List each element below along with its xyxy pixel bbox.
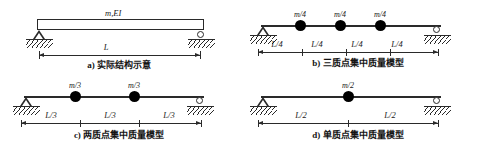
dim-tick-b-0: [258, 49, 259, 56]
ground-hatch-a-left: [26, 39, 53, 48]
dimension-label-b-3: L/4: [344, 40, 370, 49]
caption-panel-b: b) 三质点集中质量模型: [239, 58, 477, 69]
ground-hatch-c-left: [13, 106, 40, 115]
mass-label-d-1: m/2: [342, 81, 354, 90]
beam-a: [37, 19, 204, 30]
lumped-mass-b-1: [295, 20, 306, 31]
dimension-line-c: [21, 123, 201, 124]
dimension-label-a-1: L: [94, 43, 118, 52]
mass-label-b-1: m/4: [294, 10, 306, 19]
beam-c: [24, 96, 204, 98]
lumped-mass-b-2: [335, 20, 346, 31]
dimension-label-c-1: L/3: [38, 111, 64, 120]
caption-panel-a: a) 实际结构示意: [0, 60, 238, 71]
dimension-label-d-1: L/2: [288, 111, 314, 120]
dimension-label-c-2: L/3: [97, 111, 123, 120]
dim-tick-d-1: [348, 120, 349, 127]
caption-panel-c: c) 两质点集中质量模型: [0, 130, 238, 141]
lumped-mass-b-3: [375, 20, 386, 31]
panel-c-two-mass-model: m/3 m/3 L/3 L/3 L/3 c) 两质点集中质量模型: [0, 76, 238, 151]
dim-tick-c-3: [201, 120, 202, 127]
dim-tick-d-0: [258, 120, 259, 127]
lumped-mass-c-2: [129, 91, 140, 102]
mass-label-c-2: m/3: [128, 81, 140, 90]
roller-support-a-right: [197, 31, 204, 38]
dimension-label-c-3: L/3: [156, 111, 182, 120]
dimension-label-d-2: L/2: [377, 111, 403, 120]
ground-hatch-a-right: [188, 39, 215, 48]
pin-support-a-left: [33, 30, 45, 39]
dim-tick-d-2: [438, 120, 439, 127]
ground-hatch-d-left: [250, 106, 277, 115]
beam-property-label-a: m,EI: [105, 9, 121, 18]
beam-b: [261, 25, 441, 27]
dimension-label-b-1: L/4: [264, 40, 290, 49]
roller-support-d-right: [433, 97, 440, 104]
mass-label-b-3: m/4: [374, 10, 386, 19]
ground-hatch-d-right: [424, 106, 451, 115]
ground-hatch-b-right: [424, 35, 451, 44]
dimension-line-b: [258, 52, 438, 53]
dim-tick-b-1: [302, 49, 303, 56]
panel-a-actual-structure: m,EI L a) 实际结构示意: [0, 0, 238, 75]
dim-arrow-a-right: [195, 53, 200, 57]
dim-ext-a-right: [200, 51, 201, 59]
dim-tick-b-4: [438, 49, 439, 56]
dim-tick-c-2: [139, 120, 140, 127]
dim-tick-c-1: [80, 120, 81, 127]
dim-arrow-a-left: [39, 53, 44, 57]
pin-support-c-left: [20, 97, 32, 106]
dim-tick-b-2: [346, 49, 347, 56]
lumped-mass-d-1: [343, 91, 354, 102]
lumped-mass-beam-models-figure: m,EI L a) 实际结构示意 m/4 m/4 m/4 L/4 L/4: [0, 0, 477, 151]
dimension-label-b-4: L/4: [384, 40, 410, 49]
pin-support-d-left: [257, 97, 269, 106]
mass-label-c-1: m/3: [69, 81, 81, 90]
caption-panel-d: d) 单质点集中质量模型: [239, 130, 477, 141]
dim-tick-c-0: [21, 120, 22, 127]
mass-label-b-2: m/4: [334, 10, 346, 19]
pin-support-b-left: [257, 26, 269, 35]
lumped-mass-c-1: [70, 91, 81, 102]
roller-support-b-right: [433, 26, 440, 33]
dimension-label-b-2: L/4: [304, 40, 330, 49]
panel-d-single-mass-model: m/2 L/2 L/2 d) 单质点集中质量模型: [239, 76, 477, 151]
ground-hatch-c-right: [187, 106, 214, 115]
panel-b-three-mass-model: m/4 m/4 m/4 L/4 L/4 L/4 L/4 b) 三质点集中质量模型: [239, 0, 477, 75]
roller-support-c-right: [196, 97, 203, 104]
dim-tick-b-3: [390, 49, 391, 56]
dimension-line-a: [39, 55, 200, 56]
